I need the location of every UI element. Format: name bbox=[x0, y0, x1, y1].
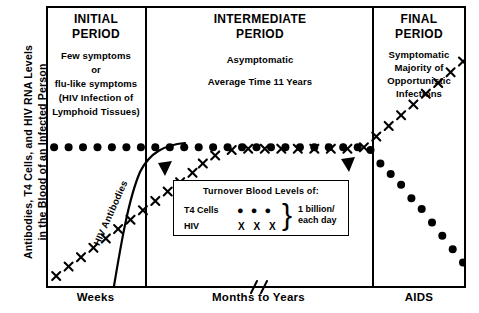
legend-box: Turnover Blood Levels of: T4 Cells ● ● ●… bbox=[173, 180, 349, 236]
arrow-marker-left bbox=[158, 161, 172, 176]
panel-initial-body-3: (HIV Infection of bbox=[59, 92, 134, 103]
hiv-point bbox=[409, 100, 417, 108]
legend-value-line1: 1 billion/ bbox=[298, 204, 335, 214]
t4-cell-point bbox=[387, 170, 395, 178]
hiv-point bbox=[151, 197, 159, 205]
arrow-marker-right bbox=[341, 157, 355, 172]
t4-cell-point bbox=[407, 194, 415, 202]
t4-cell-point bbox=[79, 143, 87, 151]
hiv-point bbox=[114, 225, 122, 233]
panel-intermediate-title: INTERMEDIATE PERIOD bbox=[150, 12, 370, 41]
t4-cell-point bbox=[122, 143, 130, 151]
panel-initial-body-2: flu-like symptoms bbox=[55, 78, 137, 89]
hiv-point bbox=[385, 122, 393, 130]
panel-intermediate-period: INTERMEDIATE PERIOD Asymptomatic Average… bbox=[150, 12, 370, 89]
legend-marker-t4-cells: ● ● ● bbox=[237, 205, 273, 216]
t4-cell-point bbox=[65, 143, 73, 151]
panel-initial-title: INITIAL PERIOD bbox=[48, 12, 144, 41]
panel-initial-body-4: Lymphoid Tissues) bbox=[52, 106, 140, 117]
panel-initial-body-1: or bbox=[91, 64, 101, 75]
panel-final-title-line2: PERIOD bbox=[395, 27, 443, 41]
hiv-point bbox=[77, 253, 85, 261]
hiv-point bbox=[65, 263, 73, 271]
panel-final-body-3: Infections bbox=[396, 88, 442, 99]
t4-cell-point bbox=[108, 143, 116, 151]
panel-intermediate-body: Asymptomatic Average Time 11 Years bbox=[150, 53, 370, 89]
t4-cell-point bbox=[166, 143, 174, 151]
x-axis-label-months-to-years: Months to Years bbox=[145, 291, 372, 303]
hiv-point bbox=[372, 133, 380, 141]
t4-cell-point bbox=[418, 205, 426, 213]
t4-cell-point bbox=[94, 143, 102, 151]
hiv-point bbox=[164, 188, 172, 196]
x-axis-label-aids: AIDS bbox=[372, 291, 466, 303]
hiv-point bbox=[199, 159, 207, 167]
panel-final-body-0: Symptomatic bbox=[389, 49, 450, 60]
hiv-progression-figure: Antibodies, T4 Cells, and HIV RNA Levels… bbox=[0, 0, 479, 313]
hiv-point bbox=[189, 169, 197, 177]
legend-brace: } bbox=[282, 201, 292, 229]
panel-final-title-line1: FINAL bbox=[401, 12, 438, 26]
panel-initial-title-line1: INITIAL bbox=[74, 12, 118, 26]
legend-value: 1 billion/ each day bbox=[298, 204, 337, 226]
panel-final-body-2: Opportunistic bbox=[387, 75, 451, 86]
panel-initial-body: Few symptoms or flu-like symptoms (HIV I… bbox=[48, 49, 144, 119]
t4-cell-point bbox=[449, 245, 457, 253]
panel-initial-body-0: Few symptoms bbox=[61, 50, 131, 61]
legend-value-line2: each day bbox=[298, 215, 337, 225]
panel-intermediate-body-0: Asymptomatic bbox=[227, 54, 294, 65]
t4-cell-point bbox=[397, 181, 405, 189]
legend-heading: Turnover Blood Levels of: bbox=[174, 186, 348, 196]
t4-cell-point bbox=[137, 143, 145, 151]
panel-intermediate-title-line1: INTERMEDIATE bbox=[214, 12, 307, 26]
hiv-point bbox=[139, 206, 147, 214]
panel-final-period: FINAL PERIOD Symptomatic Majority of Opp… bbox=[374, 12, 464, 100]
legend-marker-hiv: X X X bbox=[238, 221, 279, 232]
t4-cell-point bbox=[209, 143, 217, 151]
t4-cell-point bbox=[459, 259, 467, 267]
t4-cell-point bbox=[151, 143, 159, 151]
hiv-point bbox=[211, 151, 219, 159]
panel-initial-period: INITIAL PERIOD Few symptoms or flu-like … bbox=[48, 12, 144, 119]
t4-cell-point bbox=[195, 143, 203, 151]
legend-label-hiv: HIV bbox=[184, 221, 199, 231]
panel-intermediate-title-line2: PERIOD bbox=[236, 27, 284, 41]
hiv-point bbox=[52, 272, 60, 280]
t4-cell-point bbox=[253, 143, 261, 151]
t4-cell-point bbox=[428, 218, 436, 226]
panel-initial-title-line2: PERIOD bbox=[72, 27, 120, 41]
panel-final-body: Symptomatic Majority of Opportunistic In… bbox=[374, 48, 464, 100]
panel-final-title: FINAL PERIOD bbox=[374, 12, 464, 41]
panel-final-body-1: Majority of bbox=[394, 62, 443, 73]
t4-cell-point bbox=[376, 159, 384, 167]
panel-intermediate-body-1: Average Time 11 Years bbox=[208, 76, 312, 87]
legend-label-t4-cells: T4 Cells bbox=[184, 205, 219, 215]
hiv-point bbox=[127, 216, 135, 224]
t4-cell-point bbox=[180, 143, 188, 151]
t4-cell-point bbox=[438, 232, 446, 240]
t4-cell-point bbox=[50, 143, 58, 151]
x-axis-label-weeks: Weeks bbox=[46, 291, 145, 303]
hiv-point bbox=[397, 111, 405, 119]
